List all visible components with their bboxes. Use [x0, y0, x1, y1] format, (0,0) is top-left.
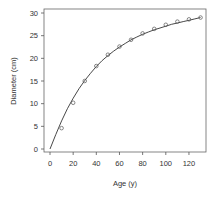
y-tick-label: 30 — [30, 9, 38, 18]
y-tick-label: 0 — [34, 145, 38, 154]
y-tick-label: 10 — [30, 99, 38, 108]
x-tick-label: 100 — [160, 159, 173, 168]
y-tick-label: 5 — [34, 122, 38, 131]
plot-box — [44, 9, 206, 152]
x-axis-title: Age (y) — [113, 179, 138, 188]
y-tick-label: 25 — [30, 31, 38, 40]
data-points — [60, 16, 203, 130]
x-tick-label: 80 — [138, 159, 146, 168]
x-tick-label: 0 — [48, 159, 52, 168]
fitted-curve-line — [50, 18, 201, 150]
data-point-marker — [71, 101, 75, 105]
y-axis-title: Diameter (cm) — [9, 57, 18, 105]
y-axis: 051015202530 — [30, 9, 44, 154]
data-point-marker — [60, 126, 64, 130]
y-tick-label: 15 — [30, 77, 38, 86]
x-tick-label: 60 — [115, 159, 123, 168]
x-tick-label: 20 — [69, 159, 77, 168]
x-axis: 020406080100120 — [48, 152, 195, 168]
growth-chart: 051015202530 020406080100120 Age (y) Dia… — [0, 0, 219, 201]
x-tick-label: 40 — [92, 159, 100, 168]
y-tick-label: 20 — [30, 54, 38, 63]
x-tick-label: 120 — [183, 159, 196, 168]
